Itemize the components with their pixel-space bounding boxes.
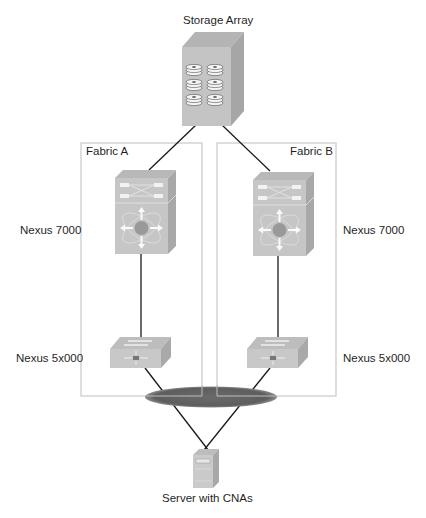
nexus-7000-a-label: Nexus 7000 [20, 224, 81, 236]
disk-stack-icon [207, 64, 223, 75]
vpc-ellipse [145, 387, 277, 408]
nexus-5000-a-label: Nexus 5x000 [16, 352, 83, 364]
nexus-5000-b-icon [247, 337, 308, 368]
fabric-b-label: Fabric B [290, 145, 333, 157]
disk-stack-icon [207, 94, 223, 105]
disk-stack-icon [186, 64, 202, 75]
fabric-a-label: Fabric A [86, 145, 128, 157]
server-label: Server with CNAs [162, 492, 253, 504]
disk-stack-icon [207, 79, 223, 90]
storage-array-icon [182, 32, 244, 126]
storage-array-label: Storage Array [183, 14, 253, 26]
nexus-7000-b-label: Nexus 7000 [343, 224, 404, 236]
nexus-5000-b-label: Nexus 5x000 [343, 352, 410, 364]
topology-canvas [0, 0, 426, 518]
nexus-5000-a-icon [110, 337, 171, 368]
server-icon [193, 449, 219, 488]
disk-stack-icon [186, 79, 202, 90]
nexus-7000-b-icon [253, 172, 314, 256]
nexus-7000-a-icon [115, 170, 176, 254]
link-storage-nexus7000-b [222, 125, 270, 171]
disk-stack-icon [186, 94, 202, 105]
link-n5k-b-server [200, 368, 270, 455]
link-storage-nexus7000-a [149, 125, 196, 170]
